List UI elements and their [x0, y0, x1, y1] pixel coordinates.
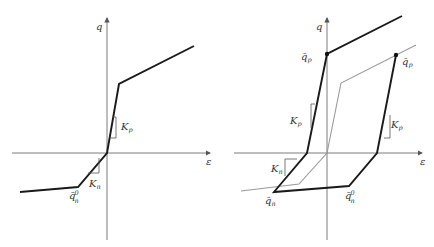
right-panel: q ε q̄p q̄p Kp Kp Kn q̄n q̄0n — [234, 16, 425, 240]
right-qp-left-label: q̄p — [301, 51, 312, 64]
right-qp-right-label: q̄p — [402, 56, 413, 69]
left-kn-label: Kn — [88, 178, 101, 191]
right-kp-right-slope-triangle — [384, 115, 390, 138]
right-hysteresis-curve — [274, 16, 402, 192]
right-qn-label: q̄n — [265, 195, 276, 208]
left-kp-label: Kp — [120, 121, 133, 134]
right-kn-label: Kn — [270, 163, 283, 176]
right-qp-right-point — [394, 53, 398, 57]
right-q-axis-label: q — [316, 21, 322, 32]
right-kp-left-label: Kp — [289, 115, 302, 128]
diagram-canvas: q ε Kp Kn q̄0n q ε q̄p q̄p Kp Kp — [0, 0, 434, 247]
left-epsilon-axis-label: ε — [206, 156, 211, 167]
right-kp-right-label: Kp — [390, 119, 403, 132]
left-panel: q ε Kp Kn q̄0n — [12, 18, 211, 240]
left-q-axis-label: q — [96, 21, 102, 32]
left-qn0-label: q̄0n — [69, 189, 79, 205]
right-qn0-label: q̄0n — [345, 189, 355, 205]
right-qp-left-point — [325, 52, 329, 56]
right-epsilon-axis-label: ε — [420, 156, 425, 167]
